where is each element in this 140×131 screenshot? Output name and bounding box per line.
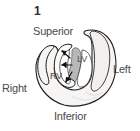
orientation-label-inferior: Inferior [54, 111, 87, 122]
panel-number: 1 [34, 5, 40, 17]
cardiac-diagram-figure: 1 Superior Inferior Right Left LV RV [0, 0, 140, 131]
chamber-label-lv: LV [77, 55, 87, 64]
orientation-label-superior: Superior [33, 26, 73, 37]
orientation-label-right: Right [2, 83, 27, 94]
chamber-label-rv: RV [50, 72, 62, 81]
orientation-label-left: Left [113, 64, 131, 75]
